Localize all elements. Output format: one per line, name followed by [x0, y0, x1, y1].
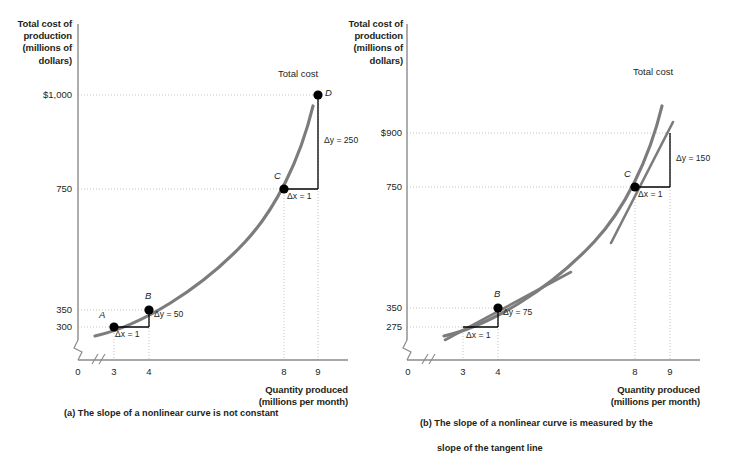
x-axis-title-line-1: Quantity produced — [532, 384, 700, 396]
y-tick-label-350: 350 — [344, 302, 402, 313]
x-tick-label-0: 0 — [68, 366, 88, 377]
y-axis-title-a: Total cost of production (millions of do… — [8, 18, 72, 67]
y-tick-label-1000: $1,000 — [14, 89, 72, 100]
point-label-c: C — [274, 170, 281, 181]
total-cost-curve-b — [444, 106, 662, 336]
y-axis-title-line-2: production — [8, 30, 72, 42]
data-point-b[interactable] — [144, 305, 153, 314]
curve-label-total-cost-a: Total cost — [278, 68, 318, 79]
delta-y-label-ab: Δy = 50 — [154, 309, 183, 319]
point-label-d: D — [325, 87, 332, 98]
delta-x-label-cd: Δx = 1 — [287, 191, 312, 201]
y-tick-label-300: 300 — [14, 321, 72, 332]
x-tick-label-4: 4 — [139, 366, 159, 377]
chart-panel-a: Total cost of production (millions of do… — [0, 0, 366, 430]
y-tick-label-275: 275 — [344, 321, 402, 332]
y-tick-label-750: 750 — [344, 181, 402, 192]
point-label-a: A — [99, 309, 105, 320]
data-point-d[interactable] — [313, 90, 322, 99]
y-tick-label-350: 350 — [14, 304, 72, 315]
x-axis-break-a — [92, 354, 105, 364]
y-axis-break-b — [403, 340, 411, 360]
point-label-b: B — [145, 290, 151, 301]
y-tick-label-750: 750 — [14, 183, 72, 194]
caption-b-line-1: (b) The slope of a nonlinear curve is me… — [420, 417, 720, 430]
gridlines-vertical-b — [463, 133, 670, 360]
y-axis-title-line-3: (millions of — [8, 42, 72, 54]
x-tick-label-3: 3 — [104, 366, 124, 377]
y-axis-title-b: Total cost of production (millions of do… — [339, 18, 403, 67]
delta-x-label-ab: Δx = 1 — [115, 329, 140, 339]
y-tick-label-900: $900 — [344, 127, 402, 138]
delta-x-label-b: Δx = 1 — [466, 330, 491, 340]
total-cost-curve-a — [95, 106, 313, 336]
x-tick-label-9: 9 — [308, 366, 328, 377]
data-point-b[interactable] — [493, 303, 502, 312]
curve-label-total-cost-b: Total cost — [633, 66, 673, 77]
delta-y-label-c: Δy = 150 — [676, 153, 710, 163]
delta-x-label-c: Δx = 1 — [638, 189, 663, 199]
y-axis-title-line-4: dollars) — [8, 55, 72, 67]
y-axis-title-line-1: Total cost of — [339, 18, 403, 30]
y-axis-title-line-2: production — [339, 30, 403, 42]
x-tick-label-4: 4 — [488, 366, 508, 377]
x-tick-label-9: 9 — [660, 366, 680, 377]
gridlines-horizontal-a — [78, 95, 322, 327]
caption-b: (b) The slope of a nonlinear curve is me… — [420, 404, 720, 457]
x-tick-label-8: 8 — [274, 366, 294, 377]
y-axis-title-line-3: (millions of — [339, 42, 403, 54]
caption-a: (a) The slope of a nonlinear curve is no… — [64, 407, 354, 420]
tangent-line-at-b — [445, 272, 571, 340]
x-axis-break-b — [422, 354, 435, 364]
x-axis-title-line-1: Quantity produced — [180, 384, 348, 396]
y-axis-break-a — [74, 340, 82, 360]
point-label-b: B — [494, 288, 500, 299]
caption-b-line-2: slope of the tangent line — [420, 442, 720, 455]
delta-y-label-b: Δy = 75 — [503, 307, 532, 317]
gridlines-vertical-a — [114, 95, 318, 360]
point-label-c: C — [624, 168, 631, 179]
chart-panel-b: Total cost of production (millions of do… — [366, 0, 732, 430]
x-tick-label-0: 0 — [398, 366, 418, 377]
x-tick-label-3: 3 — [453, 366, 473, 377]
y-axis-title-line-4: dollars) — [339, 55, 403, 67]
gridlines-horizontal-b — [407, 133, 671, 327]
x-axis-title-a: Quantity produced (millions per month) — [180, 384, 348, 408]
x-tick-label-8: 8 — [625, 366, 645, 377]
tangent-line-at-c — [611, 122, 673, 243]
y-axis-title-line-1: Total cost of — [8, 18, 72, 30]
